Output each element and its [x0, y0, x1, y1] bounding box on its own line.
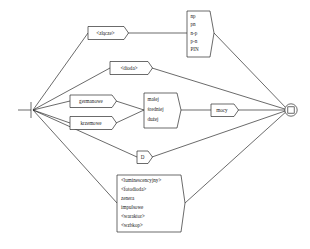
diode-kind-line-2: <fotodioda>: [121, 186, 146, 192]
power-level-line-3: dużej: [148, 116, 159, 122]
rail-diode-kinds-to-terminal: [185, 110, 288, 203]
rail-krzemowe-to-power: [116, 110, 144, 123]
node-d-letter[interactable]: D: [137, 151, 153, 164]
diode-kind-line-6: <wzbkop>: [121, 222, 143, 228]
power-level-line-2: średniej: [148, 106, 164, 112]
terminal-inner-square: [288, 107, 294, 113]
node-germanowe[interactable]: germanowe: [70, 95, 117, 108]
railroad-canvas: <złącze> np pn n-p p-n PIN <dioda> germa…: [0, 0, 310, 249]
node-krzemowe[interactable]: krzemowe: [70, 117, 117, 130]
node-germanowe-label: germanowe: [79, 98, 103, 104]
node-diode-kinds[interactable]: <luminescencyjny> <fotodioda> zenera imp…: [117, 175, 185, 232]
node-mocy-label: mocy: [216, 107, 228, 113]
node-zlacze[interactable]: <złącze>: [88, 27, 129, 40]
junction-type-line-4: p-n: [191, 38, 198, 44]
rail-germanowe-to-power: [116, 101, 144, 110]
node-d-letter-label: D: [141, 154, 145, 160]
terminal-node: [285, 104, 297, 116]
junction-type-line-2: pn: [191, 21, 197, 27]
diode-kind-line-5: <waraktor>: [121, 213, 145, 219]
node-power-levels[interactable]: małej średniej dużej: [144, 93, 181, 128]
power-level-line-1: małej: [148, 96, 159, 102]
junction-type-line-5: PIN: [191, 46, 200, 52]
junction-type-line-1: np: [191, 13, 197, 19]
junction-type-line-3: n-p: [191, 30, 198, 36]
node-d-letter-shape: [137, 151, 153, 164]
node-krzemowe-label: krzemowe: [80, 120, 102, 126]
node-dioda-label: <dioda>: [120, 65, 137, 71]
node-mocy[interactable]: mocy: [211, 104, 239, 117]
node-zlacze-label: <złącze>: [96, 30, 115, 36]
diode-kind-line-3: zenera: [121, 195, 135, 201]
node-junction-types[interactable]: np pn n-p p-n PIN: [187, 11, 214, 57]
diode-kind-line-4: impulsowe: [121, 204, 144, 210]
railroad-diagram: <złącze> np pn n-p p-n PIN <dioda> germa…: [0, 0, 310, 249]
node-dioda[interactable]: <dioda>: [110, 62, 153, 75]
diode-kind-line-1: <luminescencyjny>: [121, 177, 161, 183]
